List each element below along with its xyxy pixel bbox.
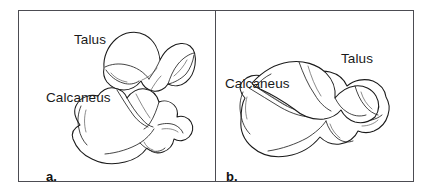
talus-outline-a (104, 32, 196, 91)
panel-caption-a: a. (46, 169, 57, 184)
label-calcaneus-panel-a: Calcaneus (46, 90, 111, 105)
label-talus-panel-b: Talus (341, 51, 373, 66)
label-talus-panel-a: Talus (74, 32, 106, 47)
panel-b: Talus Calcaneus b. (216, 10, 414, 182)
figure-root: Talus Calcaneus a. (0, 0, 433, 191)
panel-caption-b: b. (226, 169, 238, 184)
label-calcaneus-panel-b: Calcaneus (225, 76, 290, 91)
panel-a: Talus Calcaneus a. (18, 10, 215, 182)
talus-drawing-a (104, 32, 196, 91)
panel-b-bone-drawing (216, 10, 414, 182)
